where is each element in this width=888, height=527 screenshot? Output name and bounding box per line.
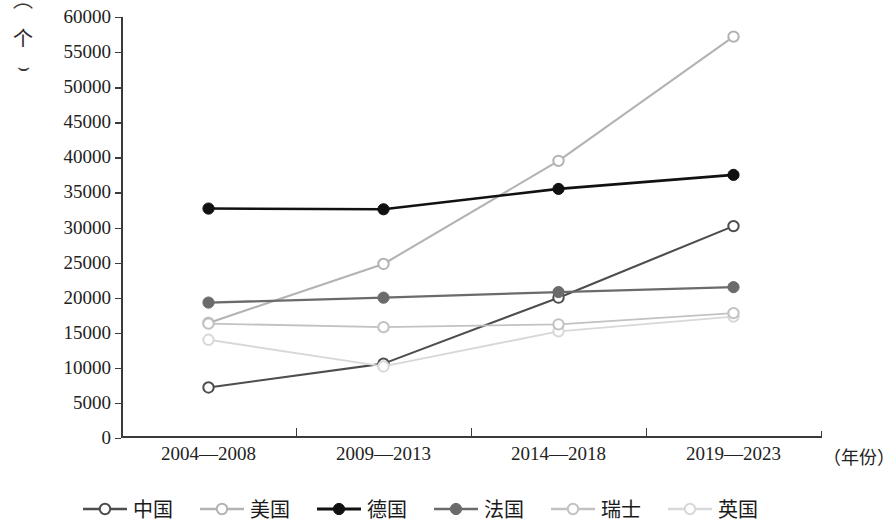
legend-item-3[interactable]: 法国 (433, 494, 524, 523)
data-point (203, 203, 214, 214)
legend-label: 中国 (133, 494, 173, 523)
x-axis-unit-label: （年份） (823, 443, 888, 469)
x-tick-label: 2009—2013 (336, 443, 431, 465)
data-point (553, 156, 563, 166)
x-tick-label: 2004—2008 (161, 443, 256, 465)
data-point (378, 204, 389, 215)
y-tick-label: 40000 (25, 146, 111, 168)
series-line (209, 175, 734, 209)
data-point (728, 221, 738, 231)
series-3 (203, 282, 739, 309)
legend-marker-icon (667, 500, 713, 518)
legend-label: 美国 (250, 494, 290, 523)
x-tick-label: 2014—2018 (511, 443, 606, 465)
y-tick-label: 15000 (25, 322, 111, 344)
legend-marker-icon (433, 500, 479, 518)
legend-marker-icon (316, 500, 362, 518)
series-lines (121, 17, 821, 438)
legend-label: 英国 (718, 494, 758, 523)
legend-item-2[interactable]: 德国 (316, 494, 407, 523)
legend-item-1[interactable]: 美国 (199, 494, 290, 523)
y-tick-label: 5000 (25, 392, 111, 414)
data-point (553, 183, 564, 194)
y-tick (115, 438, 121, 439)
chart-legend: 中国美国德国法国瑞士英国 (0, 494, 840, 523)
data-point (203, 382, 213, 392)
series-4 (203, 308, 738, 332)
legend-marker-icon (550, 500, 596, 518)
data-point (553, 286, 564, 297)
data-point (728, 282, 739, 293)
y-tick-label: 0 (25, 427, 111, 449)
series-5 (203, 311, 738, 371)
legend-marker-icon (82, 500, 128, 518)
series-line (209, 226, 734, 387)
legend-marker-icon (199, 500, 245, 518)
legend-item-5[interactable]: 英国 (667, 494, 758, 523)
series-line (209, 37, 734, 323)
data-point (203, 335, 213, 345)
legend-label: 法国 (484, 494, 524, 523)
y-tick-label: 50000 (25, 76, 111, 98)
data-point (203, 297, 214, 308)
y-tick-label: 25000 (25, 252, 111, 274)
data-point (378, 361, 388, 371)
y-tick-label: 35000 (25, 181, 111, 203)
x-axis-end-cap (821, 431, 822, 438)
data-point (378, 322, 388, 332)
series-0 (203, 221, 738, 393)
legend-label: 德国 (367, 494, 407, 523)
data-point (378, 259, 388, 269)
legend-item-0[interactable]: 中国 (82, 494, 173, 523)
y-tick-label: 55000 (25, 41, 111, 63)
data-point (553, 319, 563, 329)
x-tick-label: 2019—2023 (686, 443, 781, 465)
y-tick-label: 45000 (25, 111, 111, 133)
data-point (728, 308, 738, 318)
data-point (728, 169, 739, 180)
y-tick-label: 60000 (25, 6, 111, 28)
data-point (378, 292, 389, 303)
series-line (209, 287, 734, 302)
legend-label: 瑞士 (601, 494, 641, 523)
y-tick-label: 10000 (25, 357, 111, 379)
data-point (728, 31, 738, 41)
legend-item-4[interactable]: 瑞士 (550, 494, 641, 523)
y-tick-label: 20000 (25, 287, 111, 309)
plot-area (121, 17, 821, 438)
series-2 (203, 169, 739, 215)
series-line (209, 313, 734, 327)
data-point (203, 318, 213, 328)
y-tick-label: 30000 (25, 217, 111, 239)
series-line (209, 317, 734, 367)
